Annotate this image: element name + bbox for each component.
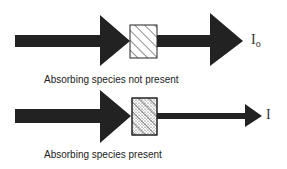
- incident-beam-top: [15, 15, 130, 66]
- transmitted-beam-reduced: [157, 104, 262, 127]
- sample-cell-absorbing: [132, 98, 157, 135]
- caption-not-present: Absorbing species not present: [44, 74, 179, 85]
- transmitted-beam-full: [157, 13, 243, 66]
- transmitted-intensity-label: I: [266, 107, 271, 123]
- incident-intensity-label: Io: [251, 32, 261, 48]
- caption-present: Absorbing species present: [44, 149, 162, 160]
- incident-beam-bottom: [15, 90, 131, 143]
- sample-cell-empty: [130, 25, 157, 58]
